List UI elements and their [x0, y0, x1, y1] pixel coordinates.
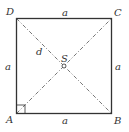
center-point — [62, 64, 66, 68]
square-diagram: D C A B S d a a a a — [0, 0, 129, 132]
center-label-s: S — [61, 53, 68, 64]
vertex-label-d: D — [5, 6, 14, 17]
side-label-top: a — [62, 7, 68, 18]
side-label-bottom: a — [62, 115, 68, 126]
vertex-label-b: B — [113, 115, 121, 126]
diagonal-label-d: d — [36, 46, 42, 57]
side-label-left: a — [5, 61, 11, 72]
vertex-label-a: A — [5, 114, 13, 125]
vertex-label-c: C — [114, 7, 122, 18]
side-label-right: a — [115, 61, 121, 72]
